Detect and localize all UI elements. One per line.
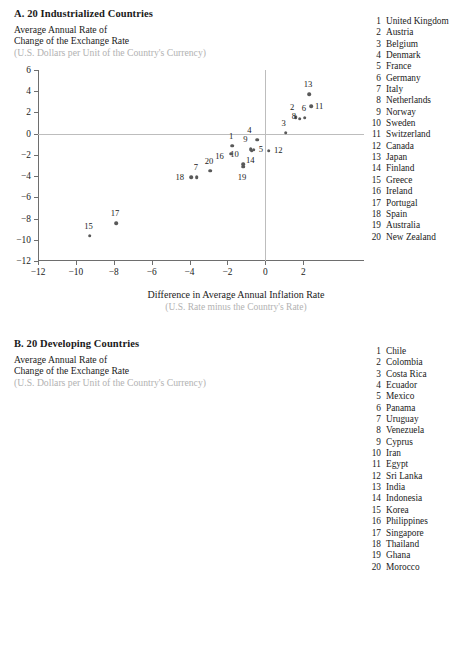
legend-item-number: 16 (366, 186, 381, 197)
data-point (256, 138, 260, 142)
data-point-label: 16 (215, 151, 224, 161)
legend-item-name: Canada (381, 141, 414, 152)
legend-item: 15Korea (366, 505, 472, 516)
data-point (114, 221, 118, 225)
legend-item-number: 15 (366, 175, 381, 186)
legend-item-name: Netherlands (381, 95, 431, 106)
legend-item-number: 13 (366, 152, 381, 163)
panel-a-y-axis (38, 70, 39, 261)
data-point (267, 149, 271, 153)
data-point-label: 6 (302, 103, 306, 113)
legend-item: 13Japan (366, 152, 472, 163)
data-point (230, 144, 234, 148)
y-axis-tick-label: −4 (21, 171, 31, 181)
x-axis-tick (303, 261, 304, 265)
legend-item-number: 7 (366, 414, 381, 425)
legend-item-number: 2 (366, 357, 381, 368)
legend-item-number: 14 (366, 163, 381, 174)
x-axis-tick-label: −4 (185, 267, 195, 277)
y-axis-label-sub: (U.S. Dollars per Unit of the Country's … (14, 377, 206, 388)
legend-item-name: Venezuela (381, 425, 424, 436)
legend-item-number: 6 (366, 403, 381, 414)
x-axis-tick-label: −12 (31, 267, 46, 277)
legend-item: 19Australia (366, 220, 472, 231)
data-point (250, 149, 254, 153)
legend-item-name: Singapore (381, 528, 424, 539)
data-point (298, 117, 302, 121)
legend-item-name: Thailand (381, 539, 419, 550)
data-point-label: 11 (315, 101, 323, 111)
y-axis-tick (34, 112, 38, 113)
data-point-label: 5 (259, 144, 263, 154)
legend-item-name: France (381, 61, 411, 72)
y-axis-tick (34, 91, 38, 92)
legend-item-name: Australia (381, 220, 420, 231)
legend-item-name: Ecuador (381, 380, 417, 391)
legend-item-name: Panama (381, 403, 415, 414)
legend-item: 8Venezuela (366, 425, 472, 436)
legend-item: 11Switzerland (366, 129, 472, 140)
data-point-label: 8 (292, 111, 296, 121)
data-point-label: 4 (247, 125, 251, 135)
x-axis-tick (227, 261, 228, 265)
y-axis-label-line1: Average Annual Rate of (14, 24, 206, 35)
legend-item-number: 9 (366, 107, 381, 118)
legend-item-number: 9 (366, 437, 381, 448)
legend-item-name: Egypt (381, 459, 408, 470)
data-point (88, 234, 92, 238)
legend-item: 16Philippines (366, 516, 472, 527)
legend-item-number: 12 (366, 471, 381, 482)
x-axis-tick-label: 0 (263, 267, 268, 277)
y-axis-tick-label: −10 (16, 235, 31, 245)
legend-item-name: Morocco (381, 562, 420, 573)
data-point-label: 19 (238, 172, 247, 182)
legend-item: 17Singapore (366, 528, 472, 539)
data-point-label: 1 (229, 131, 233, 141)
y-axis-tick-label: 2 (26, 107, 31, 117)
x-axis-tick-label: 2 (301, 267, 306, 277)
legend-item-name: Philippines (381, 516, 428, 527)
panel-a-x-axis (38, 260, 364, 261)
data-point (307, 93, 311, 97)
data-point-label: 14 (246, 155, 255, 165)
legend-item: 20Morocco (366, 562, 472, 573)
legend-item: 5Mexico (366, 391, 472, 402)
legend-item: 10Sweden (366, 118, 472, 129)
data-point (229, 152, 233, 156)
panel-b-legend: 1Chile2Colombia3Costa Rica4Ecuador5Mexic… (366, 346, 472, 573)
legend-item-name: India (381, 482, 405, 493)
legend-item-name: Chile (381, 346, 406, 357)
panel-a-legend: 1United Kingdom2Austria3Belgium4Denmark5… (366, 16, 472, 243)
legend-item-name: United Kingdom (381, 16, 449, 27)
legend-item-number: 3 (366, 39, 381, 50)
panel-b-title: B. 20 Developing Countries (14, 338, 139, 349)
panel-a-y-axis-label: Average Annual Rate of Change of the Exc… (14, 24, 206, 58)
legend-item-number: 1 (366, 16, 381, 27)
x-axis-tick-label: −10 (69, 267, 84, 277)
data-point-label: 13 (304, 79, 313, 89)
data-point-label: 20 (205, 156, 214, 166)
legend-item-name: Norway (381, 107, 416, 118)
y-axis-tick-label: −6 (21, 192, 31, 202)
panel-industrialized: A. 20 Industrialized Countries Average A… (0, 0, 472, 330)
legend-item: 11Egypt (366, 459, 472, 470)
legend-item: 15Greece (366, 175, 472, 186)
legend-item-number: 19 (366, 550, 381, 561)
legend-item: 3Belgium (366, 39, 472, 50)
legend-item-number: 20 (366, 232, 381, 243)
legend-item-number: 5 (366, 61, 381, 72)
y-axis-label-line2: Change of the Exchange Rate (14, 35, 206, 46)
x-axis-tick (38, 261, 39, 265)
legend-item-name: Spain (381, 209, 407, 220)
legend-item: 9Cyprus (366, 437, 472, 448)
legend-item-number: 18 (366, 539, 381, 550)
legend-item: 19Ghana (366, 550, 472, 561)
legend-item-number: 11 (366, 129, 381, 140)
y-axis-tick-label: −8 (21, 214, 31, 224)
legend-item-name: Belgium (381, 39, 418, 50)
legend-item: 7Italy (366, 84, 472, 95)
y-axis-tick (34, 197, 38, 198)
zero-vertical-line (265, 70, 266, 261)
legend-item-name: Greece (381, 175, 412, 186)
x-axis-tick-label: −8 (109, 267, 119, 277)
